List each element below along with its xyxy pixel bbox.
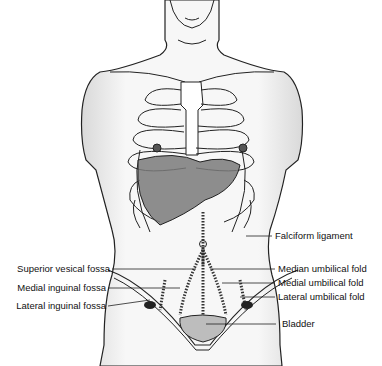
anatomy-diagram: Superior vesical fossa Medial inguinal f… [0,0,382,366]
label-lateral-umbilical-fold: Lateral umbilical fold [278,291,365,302]
torso-illustration [0,0,382,366]
label-median-umbilical-fold: Median umbilical fold [278,263,367,274]
label-lateral-inguinal-fossa: Lateral inguinal fossa [2,300,106,311]
label-falciform-ligament: Falciform ligament [275,230,353,241]
label-medial-umbilical-fold: Medial umbilical fold [278,277,364,288]
label-bladder: Bladder [282,318,315,329]
label-medial-inguinal-fossa: Medial inguinal fossa [2,282,106,293]
label-superior-vesical-fossa: Superior vesical fossa [2,263,110,274]
